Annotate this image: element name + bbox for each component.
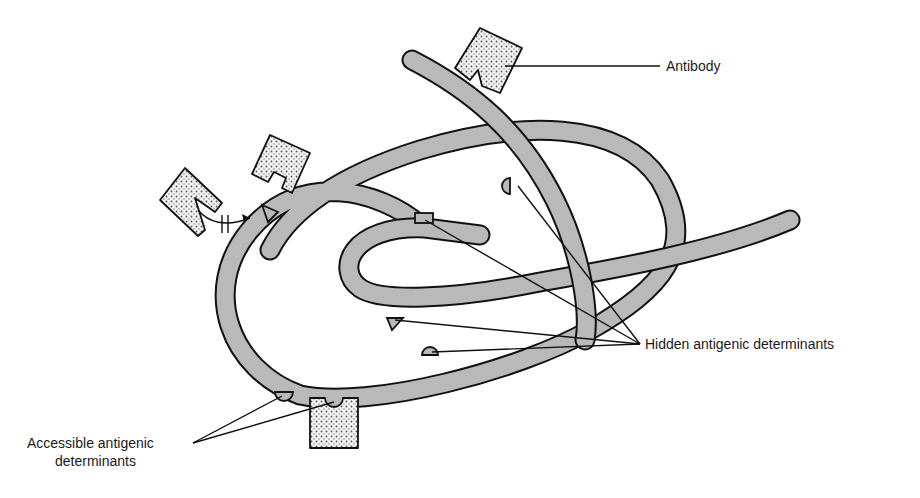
accessible-leader-1	[193, 396, 282, 443]
hidden-determinant-semicircle-1	[422, 347, 438, 355]
antibody-unbound	[160, 168, 222, 236]
hidden-determinant-triangle	[387, 318, 403, 330]
antibody-bound-upper	[252, 135, 310, 193]
antibody-label: Antibody	[666, 58, 720, 74]
hidden-determinant-square	[415, 213, 433, 223]
accessible-determinants-label-line2: determinants	[55, 453, 136, 469]
hidden-determinant-semicircle-2	[502, 178, 510, 194]
accessible-determinants-label-line1: Accessible antigenic	[27, 435, 154, 451]
hidden-determinants-label: Hidden antigenic determinants	[645, 336, 834, 352]
antigen-diagram: Antibody Hidden antigenic determinants A…	[0, 0, 920, 498]
